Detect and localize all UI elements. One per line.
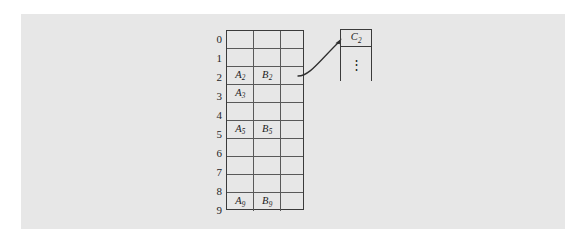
array-cell-c bbox=[281, 85, 303, 102]
array-table: A2 B2 A3 A5 B5 bbox=[226, 30, 304, 210]
figure-root: 0 1 2 3 4 5 6 7 8 9 A2 B2 A3 bbox=[0, 0, 587, 246]
array-cell-a bbox=[227, 103, 254, 120]
row-index-label: 4 bbox=[205, 106, 222, 125]
array-cell-b: B9 bbox=[254, 193, 280, 211]
array-cell-c bbox=[281, 103, 303, 120]
overflow-record-box: C2 ⋮ bbox=[340, 29, 372, 81]
array-cell-a bbox=[227, 139, 254, 156]
array-cell-b: B2 bbox=[254, 67, 280, 84]
array-cell-a bbox=[227, 49, 254, 66]
array-cell-b bbox=[254, 31, 280, 48]
array-cell-b bbox=[254, 139, 280, 156]
table-row bbox=[227, 103, 303, 121]
array-cell-b bbox=[254, 49, 280, 66]
row-index-label: 1 bbox=[205, 49, 222, 68]
array-cell-a bbox=[227, 157, 254, 174]
array-cell-c bbox=[281, 193, 303, 211]
array-cell-b bbox=[254, 103, 280, 120]
table-row bbox=[227, 175, 303, 193]
table-row bbox=[227, 49, 303, 67]
array-cell-b bbox=[254, 85, 280, 102]
array-cell-b bbox=[254, 157, 280, 174]
table-row: A9 B9 bbox=[227, 193, 303, 211]
array-cell-a: A2 bbox=[227, 67, 254, 84]
row-index-label: 6 bbox=[205, 144, 222, 163]
vertical-ellipsis-icon: ⋮ bbox=[340, 48, 372, 81]
row-index-label: 3 bbox=[205, 87, 222, 106]
row-index-label: 0 bbox=[205, 30, 222, 49]
row-index-label: 5 bbox=[205, 125, 222, 144]
array-cell-a: A9 bbox=[227, 193, 254, 211]
table-row: A3 bbox=[227, 85, 303, 103]
table-row bbox=[227, 157, 303, 175]
table-row bbox=[227, 31, 303, 49]
row-index-label: 9 bbox=[205, 201, 222, 220]
array-cell-c bbox=[281, 175, 303, 192]
array-cell-c bbox=[281, 121, 303, 138]
table-row: A5 B5 bbox=[227, 121, 303, 139]
array-cell-a: A5 bbox=[227, 121, 254, 138]
array-cell-b: B5 bbox=[254, 121, 280, 138]
table-row bbox=[227, 139, 303, 157]
array-cell-a: A3 bbox=[227, 85, 254, 102]
overflow-box-divider bbox=[340, 46, 372, 47]
row-index-label: 7 bbox=[205, 163, 222, 182]
array-cell-c bbox=[281, 139, 303, 156]
array-cell-c bbox=[281, 157, 303, 174]
overflow-box-head-cell: C2 bbox=[340, 29, 372, 46]
row-index-column: 0 1 2 3 4 5 6 7 8 9 bbox=[205, 30, 222, 210]
array-cell-a bbox=[227, 31, 254, 48]
array-cell-a bbox=[227, 175, 254, 192]
array-cell-b bbox=[254, 175, 280, 192]
row-index-label: 8 bbox=[205, 182, 222, 201]
row-index-label: 2 bbox=[205, 68, 222, 87]
table-row: A2 B2 bbox=[227, 67, 303, 85]
